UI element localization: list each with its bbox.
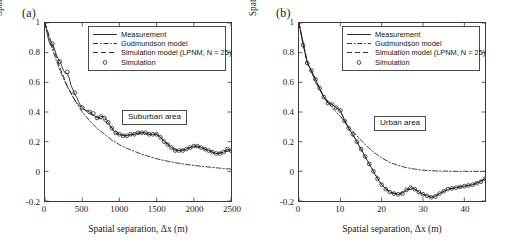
- y-tick-label: 0.4: [2, 108, 40, 117]
- legend-item: Measurement: [92, 30, 221, 39]
- x-tick-label: 1000: [110, 205, 128, 214]
- circle-marker-icon: [346, 58, 372, 67]
- legend-item: Gudmundson model: [346, 39, 475, 48]
- legend-item: Simulation: [92, 58, 221, 67]
- panel-a-y-ticks: 10.80.60.40.20-0.2: [0, 22, 40, 202]
- solid-line-icon: [92, 30, 118, 39]
- panel-b: (b) Spatial ACF, r̂xx(Δx) 10.80.60.40.20…: [254, 0, 508, 247]
- dashdot-line-icon: [92, 39, 118, 48]
- legend-item-label: Measurement: [372, 30, 420, 39]
- x-tick-label: 20: [377, 205, 386, 214]
- legend-item: Simulation: [346, 58, 475, 67]
- x-tick-label: 10: [335, 205, 344, 214]
- panel-a-legend: MeasurementGudmundson modelSimulation mo…: [88, 26, 226, 71]
- x-tick-label: 2000: [185, 205, 203, 214]
- panel-b-x-ticks: 010203040: [298, 205, 486, 219]
- x-tick-label: 500: [75, 205, 89, 214]
- legend-item: Measurement: [346, 30, 475, 39]
- x-tick-label: 0: [296, 205, 301, 214]
- figure-container: (a) Spatial ACF, r̂xx(Δx) 10.80.60.40.20…: [0, 0, 508, 247]
- dashed-line-icon: [346, 48, 372, 57]
- panel-a-x-axis-label: Spatial separation, Δx (m): [44, 224, 232, 234]
- legend-item-label: Simulation: [118, 58, 156, 67]
- x-tick-label: 1500: [148, 205, 166, 214]
- panel-a-annotation: Suburban area: [122, 110, 187, 125]
- y-tick-label: 0: [2, 168, 40, 177]
- panel-b-y-ticks: 10.80.60.40.20-0.2: [254, 22, 294, 202]
- x-tick-label: 2500: [223, 205, 241, 214]
- circle-marker-icon: [92, 58, 118, 67]
- x-tick-label: 30: [419, 205, 428, 214]
- y-tick-label: 0.2: [2, 138, 40, 147]
- panel-b-legend: MeasurementGudmundson modelSimulation mo…: [342, 26, 480, 71]
- legend-item-label: Simulation: [372, 58, 410, 67]
- panel-a: (a) Spatial ACF, r̂xx(Δx) 10.80.60.40.20…: [0, 0, 254, 247]
- y-tick-label: 0.6: [256, 78, 294, 87]
- legend-item-label: Simulation model (LPNM, N = 25): [372, 48, 485, 57]
- x-tick-label: 0: [42, 205, 47, 214]
- panel-b-annotation: Urban area: [374, 116, 426, 131]
- legend-item: Simulation model (LPNM, N = 25): [346, 48, 475, 57]
- panel-a-x-ticks: 05001000150020002500: [44, 205, 232, 219]
- dashed-line-icon: [92, 48, 118, 57]
- y-tick-label: 0.2: [256, 138, 294, 147]
- y-tick-label: -0.2: [256, 198, 294, 207]
- y-tick-label: 0.8: [2, 48, 40, 57]
- panel-b-x-axis-label: Spatial separation, Δx (m): [298, 224, 486, 234]
- y-tick-label: 1: [2, 18, 40, 27]
- y-tick-label: 0: [256, 168, 294, 177]
- y-tick-label: -0.2: [2, 198, 40, 207]
- legend-item-label: Gudmundson model: [372, 39, 442, 48]
- legend-item-label: Measurement: [118, 30, 166, 39]
- y-tick-label: 0.8: [256, 48, 294, 57]
- legend-item: Gudmundson model: [92, 39, 221, 48]
- legend-item: Simulation model (LPNM, N = 25): [92, 48, 221, 57]
- legend-item-label: Gudmundson model: [118, 39, 188, 48]
- legend-item-label: Simulation model (LPNM, N = 25): [118, 48, 231, 57]
- dashdot-line-icon: [346, 39, 372, 48]
- x-tick-label: 40: [461, 205, 470, 214]
- solid-line-icon: [346, 30, 372, 39]
- y-tick-label: 0.6: [2, 78, 40, 87]
- y-tick-label: 1: [256, 18, 294, 27]
- y-tick-label: 0.4: [256, 108, 294, 117]
